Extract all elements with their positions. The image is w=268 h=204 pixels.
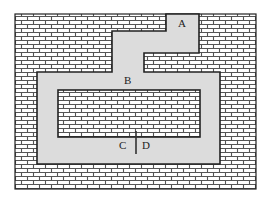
label-b: B bbox=[124, 75, 131, 86]
maze-diagram bbox=[0, 0, 268, 204]
label-d: D bbox=[142, 140, 150, 151]
label-a: A bbox=[178, 18, 186, 29]
label-c: C bbox=[119, 140, 126, 151]
inner-brick-block bbox=[58, 90, 200, 137]
